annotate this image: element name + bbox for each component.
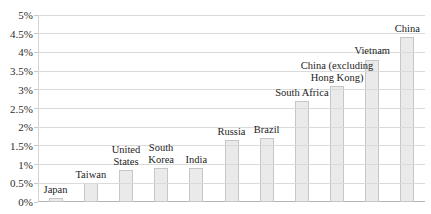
y-axis-tick xyxy=(34,183,38,184)
bar-label: Vietnam xyxy=(354,45,390,57)
bar-china-excluding-hong-kong xyxy=(330,86,344,202)
y-axis-tick xyxy=(34,89,38,90)
y-tick-label: 0.5% xyxy=(0,177,33,189)
bar-label: South Korea xyxy=(148,142,174,165)
bar-taiwan xyxy=(84,183,98,202)
bar-label: Japan xyxy=(44,184,68,196)
y-axis-tick xyxy=(34,33,38,34)
bar-india xyxy=(189,168,203,202)
y-axis-tick xyxy=(34,15,38,16)
y-tick-label: 2.5% xyxy=(0,103,33,115)
gridline xyxy=(38,33,425,34)
y-tick-label: 3.5% xyxy=(0,65,33,77)
bar-united-states xyxy=(119,170,133,202)
gridline xyxy=(38,89,425,90)
y-tick-label: 1% xyxy=(0,159,33,171)
y-axis-tick xyxy=(34,164,38,165)
y-axis-tick xyxy=(34,127,38,128)
y-tick-label: 4% xyxy=(0,46,33,58)
y-tick-label: 3% xyxy=(0,84,33,96)
y-tick-label: 5% xyxy=(0,9,33,21)
bar-japan xyxy=(49,198,63,202)
gridline xyxy=(38,108,425,109)
bar-label: India xyxy=(186,154,208,166)
bar-label: Russia xyxy=(217,126,245,138)
gridline xyxy=(38,183,425,184)
bar-label: China xyxy=(395,23,420,35)
bar-label: China (excluding Hong Kong) xyxy=(301,60,374,83)
bar-south-africa xyxy=(295,101,309,202)
bar-label: Taiwan xyxy=(75,169,106,181)
gridline xyxy=(38,164,425,165)
bar-label: South Africa xyxy=(275,87,328,99)
bar-russia xyxy=(225,140,239,202)
y-tick-label: 0% xyxy=(0,196,33,208)
bar-label: United States xyxy=(112,144,141,167)
bar-south-korea xyxy=(154,168,168,202)
gridline xyxy=(38,15,425,16)
bar-chart: 0%0.5%1%1.5%2%2.5%3%3.5%4%4.5%5%JapanTai… xyxy=(0,0,431,214)
bar-label: Brazil xyxy=(254,124,280,136)
y-tick-label: 2% xyxy=(0,121,33,133)
y-tick-label: 1.5% xyxy=(0,140,33,152)
y-axis-tick xyxy=(34,202,38,203)
y-axis-tick xyxy=(34,52,38,53)
y-axis-tick xyxy=(34,71,38,72)
y-axis-tick xyxy=(34,145,38,146)
y-tick-label: 4.5% xyxy=(0,28,33,40)
bar-china xyxy=(400,37,414,202)
y-axis-tick xyxy=(34,108,38,109)
bar-brazil xyxy=(260,138,274,202)
gridline xyxy=(38,145,425,146)
